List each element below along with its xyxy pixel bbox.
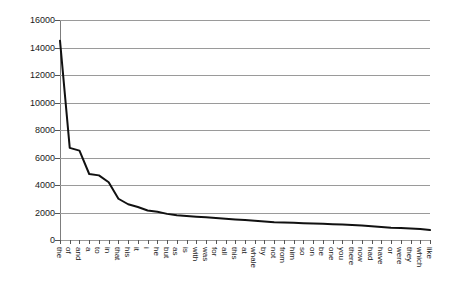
x-axis-tick [128,240,129,244]
x-axis-tick [89,240,90,244]
x-axis-tick [323,240,324,244]
x-axis-tick [167,240,168,244]
x-axis-tick [138,240,139,244]
x-axis-tick-label: that [113,247,122,260]
x-axis-tick [70,240,71,244]
y-axis-tick [55,103,60,104]
x-axis-tick-label: not [269,247,278,258]
x-axis-tick-label: as [171,247,180,255]
x-axis-tick-label: him [288,247,297,260]
y-axis-tick-label: 6000 [35,153,55,163]
x-axis-tick-label: a [84,247,93,251]
x-axis-tick [333,240,334,244]
y-axis-tick-label: 8000 [35,125,55,135]
x-axis-tick-label: with [191,247,200,261]
x-axis-tick-label: they [405,247,414,262]
x-axis-tick [79,240,80,244]
x-axis-tick-label: all [220,247,229,255]
x-axis-tick-label: which [415,247,424,267]
x-axis-tick [196,240,197,244]
x-axis-tick-label: from [278,247,287,263]
x-axis-tick [284,240,285,244]
x-axis-tick-label: like [425,247,434,259]
x-axis-tick [206,240,207,244]
x-axis-tick [216,240,217,244]
x-axis-tick [313,240,314,244]
word-frequency-chart: 0200040006000800010000120001400016000 th… [0,0,449,300]
x-axis-tick [342,240,343,244]
y-axis-tick [55,48,60,49]
y-axis-tick [55,213,60,214]
y-axis-tick [55,75,60,76]
y-axis-tick [55,130,60,131]
x-axis-tick [372,240,373,244]
y-axis-tick [55,158,60,159]
x-axis-tick-label: his [123,247,132,257]
x-axis-tick [274,240,275,244]
x-axis-tick-label: now [356,247,365,262]
y-axis-tick-label: 14000 [30,43,55,53]
x-axis-tick-label: have [376,247,385,264]
series-polyline [60,41,430,230]
x-axis-tick [303,240,304,244]
x-axis-tick-label: be [317,247,326,256]
x-axis-tick-label: but [162,247,171,258]
y-axis-tick-label: 16000 [30,15,55,25]
data-series-line [60,20,430,241]
x-axis-tick [411,240,412,244]
x-axis-tick-label: at [240,247,249,254]
x-axis-tick [264,240,265,244]
x-axis-tick-label: and [74,247,83,260]
x-axis-tick [245,240,246,244]
x-axis-tick [381,240,382,244]
x-axis-tick-label: was [201,247,210,261]
x-axis-tick [235,240,236,244]
x-axis-tick [401,240,402,244]
x-axis-tick-label: for [210,247,219,256]
x-axis-tick-label: is [181,247,190,253]
x-axis-tick [420,240,421,244]
x-axis-tick [187,240,188,244]
x-axis-tick [148,240,149,244]
y-axis-tick-label: 10000 [30,98,55,108]
x-axis-tick [255,240,256,244]
x-axis-tick [430,240,431,244]
x-axis-tick-label: so [298,247,307,255]
x-axis-tick-label: he [152,247,161,256]
x-axis-tick-label: it [132,247,141,251]
x-axis-tick-label: one [327,247,336,260]
x-axis-tick [157,240,158,244]
y-axis-tick-label: 4000 [35,180,55,190]
x-axis-tick-label: in [103,247,112,253]
y-axis-tick [55,185,60,186]
x-axis-tick-label: or [386,247,395,254]
x-axis-tick-label: you [337,247,346,260]
x-axis-tick [294,240,295,244]
y-axis-labels: 0200040006000800010000120001400016000 [0,0,55,300]
y-axis-tick [55,20,60,21]
y-axis-tick-label: 12000 [30,70,55,80]
x-axis-tick-label: by [259,247,268,255]
x-axis-tick-label: there [347,247,356,265]
x-axis-tick [362,240,363,244]
x-axis-tick-label: whale [249,247,258,268]
x-axis-tick [226,240,227,244]
x-axis-tick-label: of [64,247,73,254]
x-axis-tick [352,240,353,244]
x-axis-tick [60,240,61,244]
x-axis-tick-label: had [366,247,375,260]
x-axis-tick [99,240,100,244]
x-axis-tick [177,240,178,244]
x-axis-tick [109,240,110,244]
x-axis-tick-label: to [93,247,102,254]
x-axis-tick-label: i [142,247,151,249]
x-axis-tick-label: were [395,247,404,264]
y-axis-tick-label: 2000 [35,208,55,218]
x-axis-tick-label: on [308,247,317,256]
x-axis-tick [391,240,392,244]
x-axis-tick [118,240,119,244]
x-axis-tick-label: this [230,247,239,259]
x-axis-tick-label: the [55,247,64,258]
